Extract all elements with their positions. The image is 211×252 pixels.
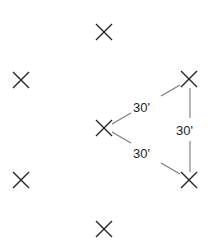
position-marks [13, 24, 197, 237]
lower-edge-distance-label: 30' [133, 146, 150, 161]
x-mark-right-lower-icon [181, 172, 197, 188]
right-edge-distance-label: 30' [176, 123, 193, 138]
x-mark-center-icon [96, 120, 112, 136]
x-mark-top-icon [96, 24, 112, 40]
x-mark-right-upper-icon [181, 71, 197, 87]
x-mark-left-lower-icon [13, 172, 29, 188]
x-mark-left-upper-icon [13, 72, 29, 88]
spacing-diagram: 30' 30' 30' [0, 0, 211, 252]
upper-edge-distance-label: 30' [133, 100, 150, 115]
x-mark-bottom-icon [96, 221, 112, 237]
